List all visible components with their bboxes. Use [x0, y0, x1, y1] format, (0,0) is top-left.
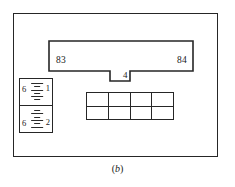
cell-grid — [86, 92, 174, 120]
grid-cell — [130, 93, 152, 106]
grid-cell — [87, 107, 108, 120]
ruler-segment-upper: 6 1 — [20, 79, 52, 106]
figure-caption: (b) — [0, 163, 235, 174]
grid-cell — [108, 93, 130, 106]
grid-row — [87, 106, 173, 120]
grid-cell — [108, 107, 130, 120]
grid-cell — [87, 93, 108, 106]
grid-cell — [151, 107, 173, 120]
main-bar-with-tab — [48, 40, 194, 82]
caption-close-paren: ) — [120, 163, 123, 174]
grid-row — [87, 93, 173, 106]
ruler-upper-right-number: 1 — [46, 84, 50, 93]
ruler-upper-left-number: 6 — [22, 85, 26, 94]
ruler-upper-ticks — [30, 81, 43, 103]
grid-cell — [151, 93, 173, 106]
figure-root: 83 84 4 6 1 6 2 — [0, 0, 235, 187]
bar-tab-label: 4 — [123, 71, 128, 80]
ruler-scale-block: 6 1 6 2 — [19, 78, 53, 133]
ruler-segment-lower: 6 2 — [20, 106, 52, 133]
bar-label-right: 84 — [177, 56, 187, 66]
grid-cell — [130, 107, 152, 120]
bar-label-left: 83 — [56, 56, 66, 66]
ruler-lower-ticks — [30, 108, 43, 131]
ruler-lower-left-number: 6 — [22, 119, 26, 128]
ruler-lower-right-number: 2 — [46, 118, 50, 127]
